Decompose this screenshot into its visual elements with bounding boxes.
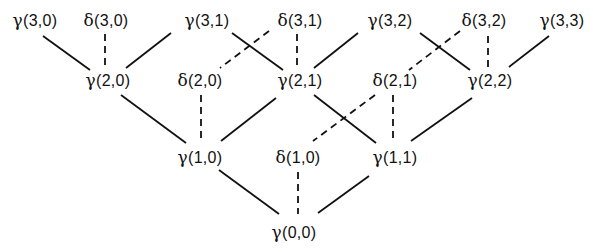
edge-g11-g00 (318, 176, 369, 213)
gamma-symbol: γ (185, 10, 195, 30)
delta-symbol: δ (178, 70, 189, 90)
node-args: (2,2) (478, 72, 512, 89)
node-d31: δ(3,1) (278, 12, 323, 29)
delta-symbol: δ (462, 10, 473, 30)
node-args: (3,1) (288, 12, 322, 29)
gamma-symbol: γ (368, 10, 378, 30)
edge-g32-g21 (314, 33, 358, 68)
node-d10: δ(1,0) (276, 149, 321, 166)
node-g33: γ(3,3) (540, 12, 585, 29)
lattice-diagram: γ(3,0)δ(3,0)γ(3,1)δ(3,1)γ(3,2)δ(3,2)γ(3,… (0, 0, 593, 252)
edge-g21-g10 (221, 98, 276, 141)
delta-symbol: δ (373, 70, 384, 90)
node-args: (1,0) (286, 149, 320, 166)
edge-g31-g20 (126, 33, 171, 68)
gamma-symbol: γ (468, 70, 478, 90)
node-g20: γ(2,0) (86, 72, 131, 89)
node-args: (3,2) (378, 12, 412, 29)
edge-d31-d20 (220, 31, 269, 68)
edge-g32-g22 (420, 33, 470, 70)
node-args: (2,1) (288, 72, 322, 89)
gamma-symbol: γ (373, 147, 383, 167)
node-args: (3,2) (472, 12, 506, 29)
node-g31: γ(3,1) (185, 12, 230, 29)
node-g22: γ(2,2) (468, 72, 513, 89)
edge-d32-d21 (409, 31, 460, 70)
node-g21: γ(2,1) (278, 72, 323, 89)
node-args: (0,0) (282, 224, 316, 241)
gamma-symbol: γ (272, 222, 282, 242)
node-args: (3,0) (94, 12, 128, 29)
gamma-symbol: γ (178, 147, 188, 167)
edge-g21-g11 (314, 95, 376, 143)
node-g32: γ(3,2) (368, 12, 413, 29)
gamma-symbol: γ (278, 70, 288, 90)
node-d30: δ(3,0) (84, 12, 129, 29)
node-args: (1,0) (188, 149, 222, 166)
delta-symbol: δ (276, 147, 287, 167)
node-args: (1,1) (383, 149, 417, 166)
node-g30: γ(3,0) (13, 12, 58, 29)
node-g11: γ(1,1) (373, 149, 418, 166)
edges-layer (0, 0, 593, 252)
edge-g22-g11 (411, 98, 472, 141)
node-d20: δ(2,0) (178, 72, 223, 89)
edge-g33-g22 (509, 36, 549, 67)
node-g10: γ(1,0) (178, 149, 223, 166)
node-d21: δ(2,1) (373, 72, 418, 89)
node-args: (2,0) (96, 72, 130, 89)
node-args: (3,3) (550, 12, 584, 29)
edge-g31-g21 (232, 33, 283, 70)
node-args: (2,0) (188, 72, 222, 89)
gamma-symbol: γ (13, 10, 23, 30)
gamma-symbol: γ (86, 70, 96, 90)
edge-g10-g00 (219, 170, 279, 214)
delta-symbol: δ (84, 10, 95, 30)
node-args: (3,0) (23, 12, 57, 29)
node-args: (3,1) (195, 12, 229, 29)
node-args: (2,1) (383, 72, 417, 89)
edge-g30-g20 (43, 36, 90, 70)
node-d32: δ(3,2) (462, 12, 507, 29)
gamma-symbol: γ (540, 10, 550, 30)
delta-symbol: δ (278, 10, 289, 30)
edge-g20-g10 (121, 95, 186, 143)
node-g00: γ(0,0) (272, 224, 317, 241)
